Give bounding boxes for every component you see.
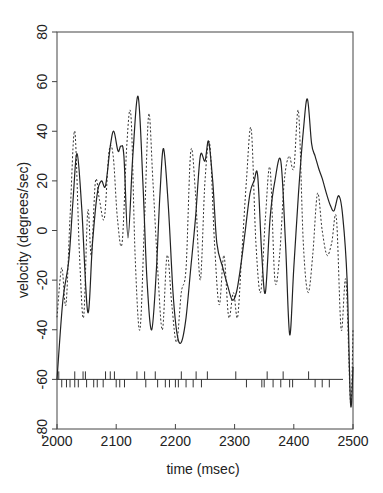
x-tick-label: 2200 xyxy=(160,433,191,449)
spike-rug xyxy=(57,371,343,387)
y-tick-label: -40 xyxy=(34,319,50,339)
y-axis: -80-60-40-20020406080 xyxy=(34,24,57,439)
x-tick-label: 2300 xyxy=(219,433,250,449)
y-tick-label: 20 xyxy=(34,173,50,189)
series-solid-line xyxy=(57,96,353,407)
x-tick-label: 2400 xyxy=(278,433,309,449)
y-axis-label: velocity (degrees/sec) xyxy=(15,162,31,298)
x-axis-label: time (msec) xyxy=(166,461,239,477)
y-tick-label: 40 xyxy=(34,123,50,139)
y-tick-label: -60 xyxy=(34,369,50,389)
series-dotted-line xyxy=(57,110,353,405)
y-tick-label: -20 xyxy=(34,270,50,290)
x-tick-label: 2100 xyxy=(101,433,132,449)
y-tick-label: 80 xyxy=(34,24,50,40)
velocity-chart: -80-60-40-20020406080 200021002200230024… xyxy=(0,0,383,493)
y-tick-label: 0 xyxy=(34,226,50,234)
plot-frame xyxy=(57,32,353,429)
x-axis: 200021002200230024002500 xyxy=(41,424,368,449)
x-tick-label: 2000 xyxy=(41,433,72,449)
x-tick-label: 2500 xyxy=(337,433,368,449)
y-tick-label: 60 xyxy=(34,74,50,90)
